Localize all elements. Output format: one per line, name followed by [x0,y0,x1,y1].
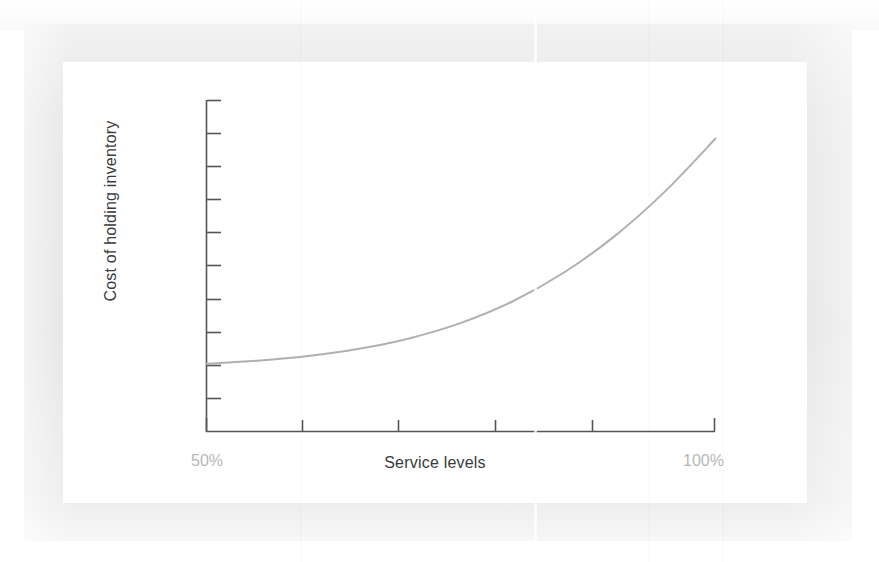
x-axis-ticks [207,418,715,431]
x-axis-title: Service levels [63,454,807,472]
figure-card: 50% 100% Service levels Cost of holding … [63,62,807,503]
y-axis-ticks [207,101,221,399]
cost-of-holding-inventory-curve [207,139,716,364]
page-root: 50% 100% Service levels Cost of holding … [0,0,879,562]
y-axis-title: Cost of holding inventory [102,101,120,321]
line-chart: 50% 100% Service levels Cost of holding … [63,62,807,503]
chart-canvas [63,62,807,503]
